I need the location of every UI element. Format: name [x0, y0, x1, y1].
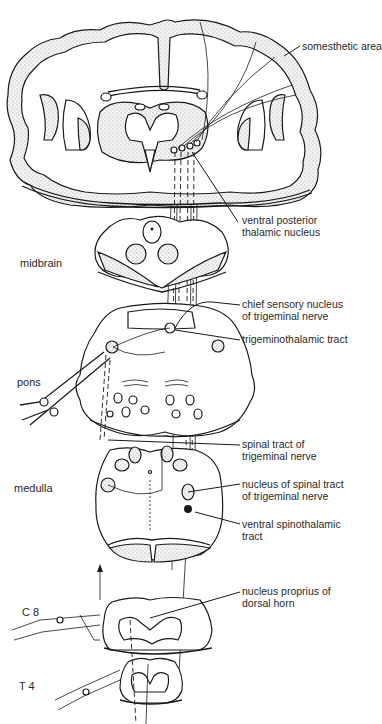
label-spinal-tract-of-trigeminal: spinal tract of trigeminal nerve: [242, 438, 317, 462]
level-c8: C 8: [22, 606, 39, 618]
medulla-section: [96, 446, 223, 562]
label-line: of trigeminal nerve: [242, 310, 343, 322]
label-ventral-spinothalamic-tract: ventral spinothalamic tract: [242, 518, 341, 542]
midbrain-section: [95, 216, 228, 292]
label-line: ventral posterior: [242, 214, 320, 226]
label-line: thalamic nucleus: [242, 226, 320, 238]
label-line: ventral spinothalamic: [242, 518, 341, 530]
label-line: nucleus proprius of: [242, 585, 331, 597]
label-nucleus-of-spinal-tract: nucleus of spinal tract of trigeminal ne…: [242, 478, 344, 502]
level-t4: T 4: [19, 680, 35, 692]
level-pons: pons: [17, 376, 41, 388]
label-line: nucleus of spinal tract: [242, 478, 344, 490]
label-line: chief sensory nucleus: [242, 298, 343, 310]
label-somesthetic-area: somesthetic area: [302, 40, 382, 52]
label-nucleus-proprius: nucleus proprius of dorsal horn: [242, 585, 331, 609]
label-ventral-posterior-thalamic-nucleus: ventral posterior thalamic nucleus: [242, 214, 320, 238]
label-line: spinal tract of: [242, 438, 317, 450]
label-trigeminothalamic-tract: trigeminothalamic tract: [242, 333, 348, 345]
cerebrum-section: [7, 20, 321, 208]
label-line: of trigeminal nerve: [242, 490, 344, 502]
label-line: tract: [242, 530, 341, 542]
c8-spinal-section: [12, 598, 212, 655]
label-chief-sensory-nucleus: chief sensory nucleus of trigeminal nerv…: [242, 298, 343, 322]
label-line: trigeminal nerve: [242, 450, 317, 462]
label-line: dorsal horn: [242, 597, 331, 609]
level-midbrain: midbrain: [20, 257, 62, 269]
pons-section: [20, 303, 255, 440]
level-medulla: medulla: [14, 482, 53, 494]
